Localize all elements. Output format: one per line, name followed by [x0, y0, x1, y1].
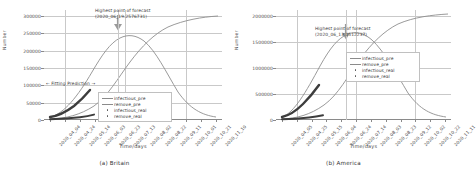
- peak-annotation-a-line2: (2020_06_19.2576731): [95, 14, 150, 20]
- x-tick-mark: [65, 120, 66, 122]
- legend-a: infectious_preremove_preinfectious_realr…: [98, 92, 172, 122]
- legend-label: infectious_real: [114, 108, 147, 113]
- y-tick-label: 500000: [255, 92, 273, 97]
- fitting-prediction-annotation-a: ← Fitting Prediction →: [46, 81, 95, 86]
- legend-label: infectious_pre: [114, 96, 145, 101]
- x-tick-mark: [371, 120, 372, 122]
- x-tick-mark: [282, 120, 283, 122]
- x-tick-mark: [297, 120, 298, 122]
- x-tick-mark: [186, 120, 187, 122]
- dot-swatch-icon: [107, 115, 109, 117]
- legend-key: [349, 73, 362, 79]
- dot-swatch-icon: [107, 109, 109, 111]
- y-tick-label: 50000: [26, 100, 41, 105]
- x-tick-mark: [201, 120, 202, 122]
- x-tick-mark: [95, 120, 96, 122]
- peak-annotation-b-line2: (2020_06_13.1512237): [315, 32, 370, 38]
- x-tick-mark: [216, 120, 217, 122]
- x-tick-mark: [401, 120, 402, 122]
- legend-item: remove_real: [349, 73, 416, 79]
- x-tick-mark: [312, 120, 313, 122]
- x-tick-mark: [430, 120, 431, 122]
- x-axis-title-a: Time/days: [44, 143, 222, 149]
- line-swatch-icon: [350, 58, 361, 59]
- y-axis-title-a: Number: [2, 30, 7, 50]
- y-tick-label: 100000: [23, 83, 41, 88]
- legend-label: remove_pre: [114, 102, 141, 107]
- y-tick-label: 2000000: [252, 14, 273, 19]
- x-tick-mark: [50, 120, 51, 122]
- chart-panel-america: Number 0500000100000015000002000000 2020…: [229, 0, 458, 180]
- y-tick-label: 150000: [23, 66, 41, 71]
- x-tick-mark: [356, 120, 357, 122]
- x-tick-mark: [415, 120, 416, 122]
- y-tick-label: 1500000: [252, 40, 273, 45]
- line-swatch-icon: [102, 104, 113, 105]
- y-tick-label: 300000: [23, 14, 41, 19]
- line-swatch-icon: [350, 64, 361, 65]
- panel-caption-b: (b) America: [229, 160, 458, 166]
- peak-annotation-b: Highest point of forecast (2020_06_13.15…: [315, 26, 370, 38]
- points-infectious-real-b: [282, 85, 319, 117]
- x-tick-mark: [341, 120, 342, 122]
- legend-label: remove_pre: [362, 62, 389, 67]
- y-tick-label: 250000: [23, 31, 41, 36]
- legend-label: remove_real: [362, 74, 390, 79]
- panel-caption-a: (a) Britain: [0, 160, 229, 166]
- legend-b: infectious_preremove_preinfectious_realr…: [346, 52, 420, 82]
- y-tick-label: 200000: [23, 48, 41, 53]
- x-tick-mark: [80, 120, 81, 122]
- dot-swatch-icon: [355, 75, 357, 77]
- legend-label: infectious_pre: [362, 56, 393, 61]
- x-tick-mark: [326, 120, 327, 122]
- y-tick-mark: [41, 120, 44, 121]
- dot-swatch-icon: [355, 69, 357, 71]
- legend-label: infectious_real: [362, 68, 395, 73]
- y-axis-title-b: Number: [234, 30, 239, 50]
- y-tick-mark: [273, 120, 276, 121]
- legend-label: remove_real: [114, 114, 142, 119]
- line-swatch-icon: [102, 98, 113, 99]
- x-axis-title-b: Time/days: [276, 143, 451, 149]
- x-tick-mark: [445, 120, 446, 122]
- y-tick-label: 1000000: [252, 66, 273, 71]
- peak-annotation-a: Highest point of forecast (2020_06_19.25…: [95, 8, 150, 20]
- x-tick-mark: [386, 120, 387, 122]
- legend-item: remove_real: [101, 113, 168, 119]
- legend-key: [101, 113, 114, 119]
- chart-panel-britain: Number 050000100000150000200000250000300…: [0, 0, 229, 180]
